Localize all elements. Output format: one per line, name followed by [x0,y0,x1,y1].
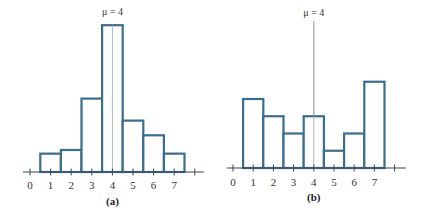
panel-label: (a) [106,195,119,208]
histogram-bar [243,99,263,168]
x-tick-label: 1 [250,176,256,188]
x-tick-label: 2 [271,176,277,188]
x-tick-label: 7 [171,179,177,191]
histogram-bar [364,82,384,168]
x-tick-label: 0 [27,179,33,191]
x-tick-label: 3 [291,176,297,188]
mean-annotation: μ = 4 [102,6,123,17]
histogram-bar [143,135,164,172]
x-tick-label: 4 [110,179,116,191]
x-tick-label: 1 [48,179,54,191]
x-tick-label: 6 [151,179,157,191]
x-tick-label: 6 [351,176,357,188]
histogram-bar [284,134,304,169]
x-tick-label: 7 [372,176,378,188]
x-tick-label: 4 [311,176,317,188]
mean-annotation: μ = 4 [303,7,324,18]
histogram-panel-b: 01234567μ = 4(b) [227,7,406,204]
x-tick-label: 3 [89,179,95,191]
x-tick-label: 0 [230,176,236,188]
histogram-figure: 01234567μ = 4(a) 01234567μ = 4(b) [0,0,426,213]
histogram-panel-a: 01234567μ = 4(a) [23,6,204,208]
histogram-bar [263,116,283,168]
histogram-bar [123,121,144,172]
histogram-bar [344,134,364,169]
x-tick-label: 2 [68,179,74,191]
x-tick-label: 5 [130,179,136,191]
panel-label: (b) [307,191,321,204]
histogram-bar [82,99,103,172]
x-tick-label: 5 [331,176,337,188]
